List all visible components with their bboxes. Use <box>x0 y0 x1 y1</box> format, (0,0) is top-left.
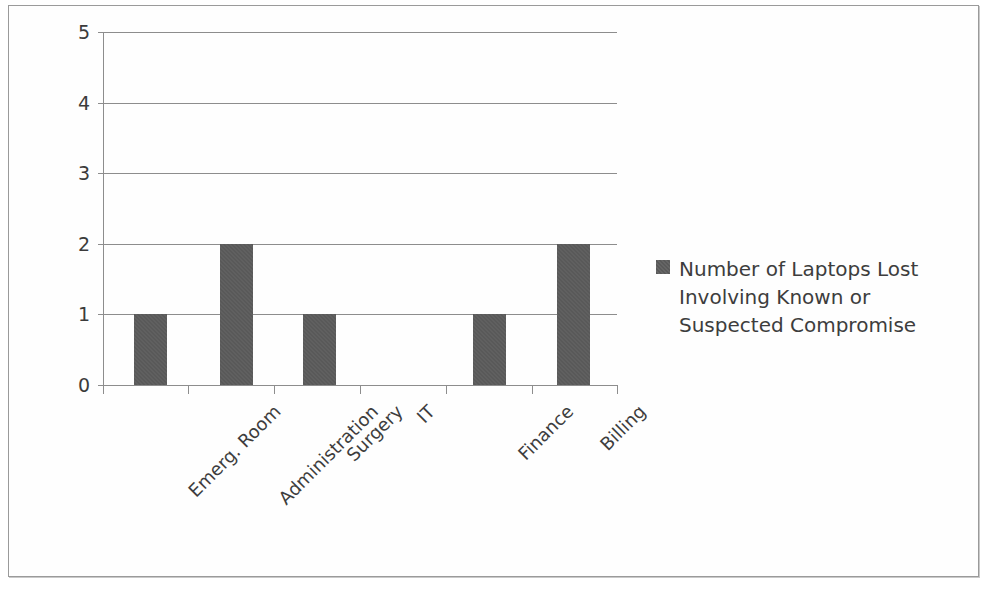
y-axis-label-4: 4 <box>56 94 90 113</box>
x-axis-label-billing: Billing <box>597 402 649 454</box>
y-axis-label-0: 0 <box>56 376 90 395</box>
x-tick-5 <box>532 385 533 394</box>
x-axis-label-emerg-room: Emerg. Room <box>185 402 283 500</box>
legend-item-label: Number of Laptops Lost Involving Known o… <box>679 255 941 339</box>
legend-item[interactable]: Number of Laptops Lost Involving Known o… <box>656 255 956 339</box>
x-tick-4 <box>446 385 447 394</box>
x-tick-1 <box>188 385 189 394</box>
bar-chart: 5 4 3 2 1 0 Emerg. Room Administration S… <box>0 0 988 589</box>
y-axis-label-1: 1 <box>56 305 90 324</box>
y-tick-5 <box>98 32 104 33</box>
x-tick-6 <box>617 385 618 394</box>
bar-finance[interactable] <box>473 314 506 385</box>
x-axis-label-it: IT <box>414 402 438 426</box>
chart-screenshot: 5 4 3 2 1 0 Emerg. Room Administration S… <box>0 0 988 589</box>
y-tick-1 <box>98 314 104 315</box>
x-tick-0 <box>103 385 104 394</box>
bar-billing[interactable] <box>557 244 590 385</box>
x-tick-2 <box>274 385 275 394</box>
y-tick-4 <box>98 103 104 104</box>
y-axis-line <box>103 32 104 385</box>
legend-swatch-icon <box>656 260 670 274</box>
y-tick-2 <box>98 244 104 245</box>
y-axis-label-5: 5 <box>56 23 90 42</box>
chart-legend: Number of Laptops Lost Involving Known o… <box>656 255 956 339</box>
y-tick-3 <box>98 173 104 174</box>
bar-emerg-room[interactable] <box>134 314 167 385</box>
x-axis-label-finance: Finance <box>515 402 576 463</box>
x-tick-3 <box>360 385 361 394</box>
y-axis-label-3: 3 <box>56 164 90 183</box>
plot-bars <box>103 32 617 385</box>
bar-surgery[interactable] <box>303 314 336 385</box>
bar-administration[interactable] <box>220 244 253 385</box>
y-axis-label-2: 2 <box>56 235 90 254</box>
